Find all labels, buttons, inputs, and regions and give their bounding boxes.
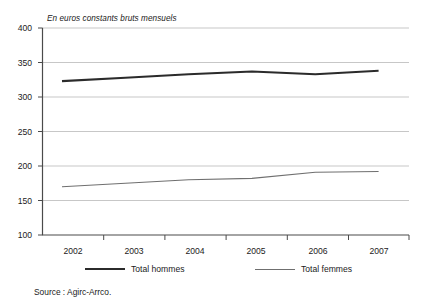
x-tick-label-2007: 2007 (355, 246, 403, 256)
legend-swatch-total-hommes (85, 268, 125, 270)
legend-label-total-femmes: Total femmes (301, 264, 352, 274)
source-note: Source : Agirc-Arrco. (34, 287, 111, 297)
series-line-total-hommes (62, 71, 379, 81)
legend-item-total-femmes: Total femmes (255, 264, 352, 274)
y-tick-marks (38, 28, 43, 235)
y-tick-label-250: 250 (4, 127, 32, 137)
y-tick-label-200: 200 (4, 161, 32, 171)
y-tick-label-400: 400 (4, 23, 32, 33)
gridlines (42, 28, 409, 201)
series-line-total-femmes (62, 172, 379, 187)
chart-plot-area (0, 0, 423, 307)
y-tick-label-150: 150 (4, 196, 32, 206)
legend-swatch-total-femmes (255, 269, 295, 270)
x-tick-marks (104, 235, 409, 240)
legend-item-total-hommes: Total hommes (85, 264, 185, 274)
y-tick-label-300: 300 (4, 92, 32, 102)
x-tick-label-2002: 2002 (49, 246, 97, 256)
x-tick-label-2003: 2003 (110, 246, 158, 256)
chart-container: En euros constants bruts mensuels 400 35… (0, 0, 423, 307)
plot-title: En euros constants bruts mensuels (47, 14, 177, 23)
y-tick-label-350: 350 (4, 58, 32, 68)
y-tick-label-100: 100 (4, 230, 32, 240)
x-tick-label-2004: 2004 (171, 246, 219, 256)
x-tick-label-2005: 2005 (232, 246, 280, 256)
x-tick-label-2006: 2006 (294, 246, 342, 256)
legend-label-total-hommes: Total hommes (131, 264, 185, 274)
